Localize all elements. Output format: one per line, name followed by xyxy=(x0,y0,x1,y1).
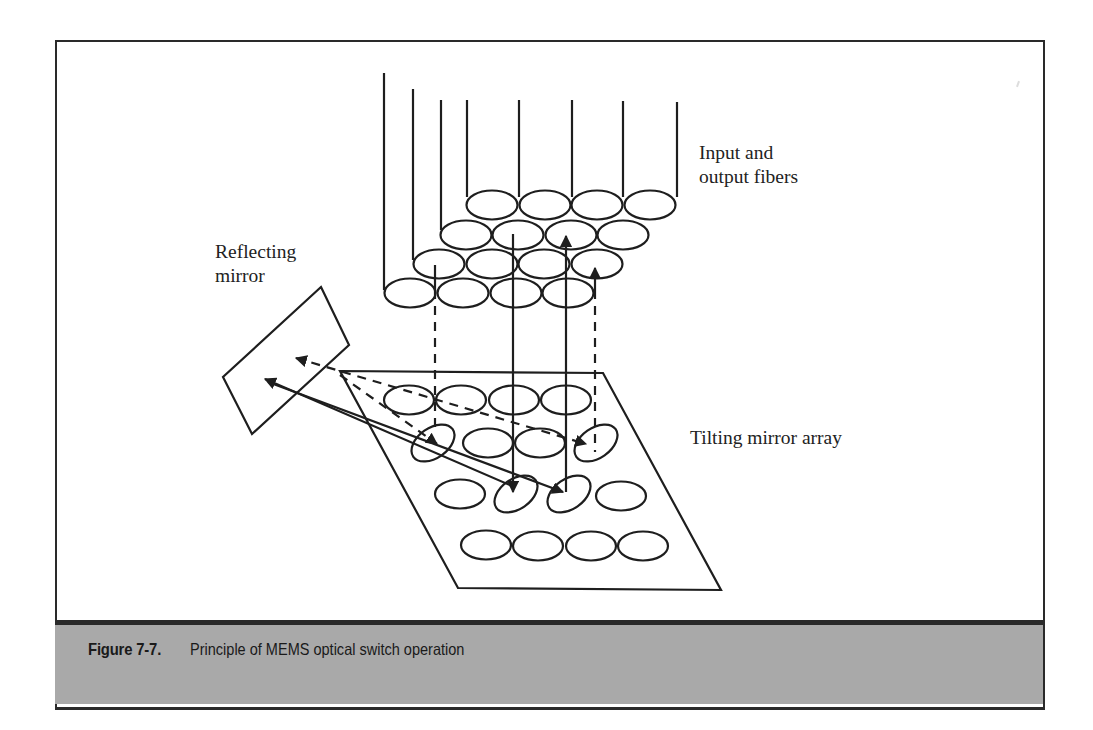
fiber-leads xyxy=(384,73,677,290)
beam-paths xyxy=(265,234,595,492)
fiber-bundle xyxy=(384,73,677,308)
figure-caption: Principle of MEMS optical switch operati… xyxy=(190,640,464,659)
fibers-label: Input and output fibers xyxy=(699,141,798,189)
fibers-label-line-2: output fibers xyxy=(699,165,798,189)
array-mirrors xyxy=(384,386,668,561)
tilting-array-label: Tilting mirror array xyxy=(690,426,842,450)
mirror-label-line-2: mirror xyxy=(215,264,296,288)
figure-page: Input and output fibers Reflecting mirro… xyxy=(0,0,1093,730)
fibers-label-line-1: Input and xyxy=(699,141,798,165)
reflecting-mirror xyxy=(223,287,349,434)
reflecting-mirror-label: Reflecting mirror xyxy=(215,240,296,288)
mirror-label-line-1: Reflecting xyxy=(215,240,296,264)
caption-bar: Figure 7-7. Principle of MEMS optical sw… xyxy=(55,620,1043,704)
solid-beam-from-mirror xyxy=(268,382,563,492)
figure-number: Figure 7-7. xyxy=(88,640,161,659)
fiber-ends xyxy=(385,191,676,308)
array-label-text: Tilting mirror array xyxy=(690,426,842,450)
